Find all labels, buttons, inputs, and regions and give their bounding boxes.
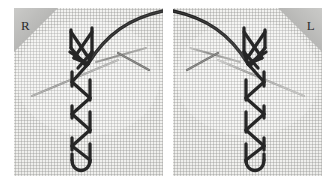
panel-right-handed: R — [14, 8, 163, 176]
panel-label-right-handed: R — [21, 19, 30, 32]
flag-triangle-icon-l — [278, 8, 322, 52]
stitch-diagram-figure: R — [0, 0, 326, 190]
panel-left-handed: L — [173, 8, 322, 176]
corner-flag-left-handed: L — [278, 8, 322, 52]
panel-label-left-handed: L — [307, 19, 315, 32]
corner-flag-right-handed: R — [14, 8, 58, 52]
